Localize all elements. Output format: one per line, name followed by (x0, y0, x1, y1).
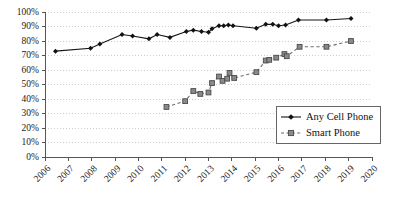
data-point (146, 36, 151, 41)
data-point (199, 29, 204, 34)
x-tick-label: 2019 (336, 163, 357, 184)
data-point (155, 32, 160, 37)
data-point (217, 23, 222, 28)
x-tick-label: 2006 (32, 163, 53, 184)
data-point (270, 22, 275, 27)
x-tick-label: 2014 (219, 163, 240, 184)
data-point (53, 49, 58, 54)
data-point (220, 78, 225, 83)
x-tick-labels: 2006200720082009201020112012201320142015… (32, 163, 380, 184)
y-tick-label: 20% (22, 123, 40, 133)
data-point (231, 23, 236, 28)
x-tick-label: 2017 (289, 163, 310, 184)
y-axis (42, 12, 46, 157)
data-point (97, 41, 102, 46)
data-point (88, 46, 93, 51)
y-tick-label: 70% (22, 50, 40, 60)
series-any-cell-phone (53, 16, 353, 54)
data-point (130, 33, 135, 38)
data-point (276, 23, 281, 28)
data-point (120, 32, 125, 37)
data-point (263, 22, 268, 27)
data-point (324, 44, 329, 49)
data-point (167, 35, 172, 40)
y-tick-label: 40% (22, 94, 40, 104)
y-tick-label: 100% (17, 7, 39, 17)
x-tick-label: 2020 (359, 163, 380, 184)
data-point (191, 28, 196, 33)
data-point (191, 89, 196, 94)
y-tick-label: 90% (22, 21, 40, 31)
y-tick-label: 50% (22, 79, 40, 89)
x-tick-label: 2011 (149, 163, 169, 183)
x-tick-label: 2015 (242, 163, 263, 184)
data-point (164, 105, 169, 110)
data-point (254, 70, 259, 75)
chart-container: 0%10%20%30%40%50%60%70%80%90%100% 200620… (0, 0, 393, 203)
y-tick-label: 30% (22, 108, 40, 118)
y-tick-label: 80% (22, 36, 40, 46)
data-point (225, 76, 230, 81)
y-tick-label: 60% (22, 65, 40, 75)
x-tick-label: 2007 (55, 163, 76, 184)
data-point (206, 90, 211, 95)
y-tick-label: 0% (26, 152, 39, 162)
data-point (198, 92, 203, 97)
data-point (232, 76, 237, 81)
chart-legend: Any Cell PhoneSmart Phone (276, 106, 380, 143)
data-point (227, 71, 232, 76)
data-point (324, 17, 329, 22)
data-point (296, 17, 301, 22)
legend-label: Any Cell Phone (306, 111, 373, 122)
data-point (348, 16, 353, 21)
x-tick-label: 2009 (102, 163, 123, 184)
data-point (297, 44, 302, 49)
y-tick-labels: 0%10%20%30%40%50%60%70%80%90%100% (17, 7, 39, 162)
line-chart: 0%10%20%30%40%50%60%70%80%90%100% 200620… (0, 0, 393, 203)
x-tick-label: 2012 (172, 163, 193, 184)
data-point (183, 99, 188, 104)
data-point (221, 23, 226, 28)
legend-marker (288, 130, 293, 135)
data-point (284, 54, 289, 59)
data-point (349, 39, 354, 44)
x-tick-label: 2013 (195, 163, 216, 184)
legend-label: Smart Phone (306, 127, 360, 138)
x-tick-label: 2010 (125, 163, 146, 184)
y-tick-label: 10% (22, 137, 40, 147)
data-point (184, 29, 189, 34)
data-point (274, 55, 279, 60)
x-tick-label: 2018 (312, 163, 333, 184)
x-tick-label: 2008 (79, 163, 100, 184)
data-point (283, 23, 288, 28)
data-point (210, 81, 215, 86)
x-axis (45, 157, 372, 161)
data-point (226, 23, 231, 28)
x-tick-label: 2016 (265, 163, 286, 184)
data-point (267, 57, 272, 62)
